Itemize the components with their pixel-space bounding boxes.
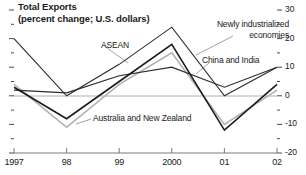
series-label: China and India <box>202 55 259 65</box>
x-axis-tick-label: 01 <box>204 157 244 167</box>
annotation-leader-lines <box>76 36 233 124</box>
y-axis-left-ticks <box>9 10 14 153</box>
y-axis-tick-label: 0 <box>285 90 290 100</box>
y-axis-tick-label: 10 <box>285 61 294 71</box>
leader-line <box>76 119 91 124</box>
x-axis-tick-label: 98 <box>47 157 87 167</box>
x-axis-tick-label: 02 <box>257 157 297 167</box>
series-label: ASEAN <box>101 40 129 50</box>
x-axis-tick-label: 99 <box>99 157 139 167</box>
y-axis-tick-label: 20 <box>285 33 294 43</box>
x-axis-ticks <box>14 148 277 153</box>
y-axis-tick-label: -20 <box>285 147 297 157</box>
x-axis-tick-label: 2000 <box>152 157 192 167</box>
y-axis-tick-label: -10 <box>285 118 297 128</box>
y-axis-tick-label: 30 <box>285 4 294 14</box>
series-label: Newly industrialized economies <box>203 19 289 41</box>
x-axis-tick-label: 1997 <box>0 157 34 167</box>
chart-figure: Total Exports (percent change; U.S. doll… <box>0 0 306 175</box>
series-label: Australia and New Zealand <box>93 113 191 123</box>
